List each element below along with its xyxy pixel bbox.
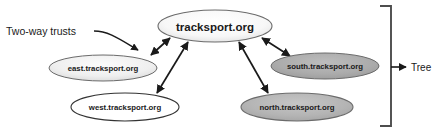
node-north[interactable]: north.tracksport.org	[241, 93, 353, 121]
node-north-label: north.tracksport.org	[260, 103, 335, 112]
edge-root-west	[157, 42, 188, 93]
diagram-canvas: tracksport.org east.tracksport.org west.…	[0, 0, 436, 134]
annotation-tree: Tree	[380, 6, 432, 126]
edges-group	[151, 38, 290, 93]
edge-root-north	[239, 42, 268, 93]
tree-bracket	[380, 6, 391, 126]
node-root-label: tracksport.org	[176, 21, 254, 33]
node-south[interactable]: south.tracksport.org	[271, 53, 379, 79]
node-east[interactable]: east.tracksport.org	[49, 55, 157, 81]
two-way-trusts-label: Two-way trusts	[6, 25, 76, 37]
annotation-two-way-trusts: Two-way trusts	[6, 25, 138, 50]
edge-root-south	[262, 38, 290, 56]
node-east-label: east.tracksport.org	[68, 64, 139, 73]
node-west-label: west.tracksport.org	[88, 103, 162, 112]
node-west[interactable]: west.tracksport.org	[71, 93, 179, 121]
node-south-label: south.tracksport.org	[287, 62, 363, 71]
two-way-trusts-leader	[94, 31, 138, 50]
node-root[interactable]: tracksport.org	[158, 10, 272, 42]
edge-root-east	[151, 38, 170, 55]
trust-diagram: tracksport.org east.tracksport.org west.…	[0, 0, 436, 134]
tree-label: Tree	[411, 62, 432, 73]
